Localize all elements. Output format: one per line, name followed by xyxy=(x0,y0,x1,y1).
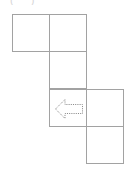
top-clipped-glyphs: ( ) xyxy=(10,0,50,5)
arrow-left-icon xyxy=(54,97,84,121)
grid-shape xyxy=(12,14,122,166)
grid-cell-c2-r3[interactable] xyxy=(86,126,124,164)
grid-cell-c2-r2[interactable] xyxy=(86,89,124,127)
grid-cell-c1-r2-arrow[interactable] xyxy=(49,89,87,127)
puzzle-canvas: ( ) xyxy=(0,0,128,176)
grid-cell-c0-r0[interactable] xyxy=(12,14,50,52)
grid-cell-c1-r1[interactable] xyxy=(49,51,87,89)
arrow-container xyxy=(50,90,88,128)
grid-cell-c1-r0[interactable] xyxy=(49,14,87,52)
